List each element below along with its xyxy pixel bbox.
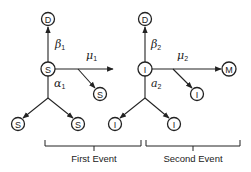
svg-text:D: D <box>45 15 52 25</box>
rate-mu1: μ1 <box>86 49 97 62</box>
rate-beta1: β1 <box>54 38 65 51</box>
node-m: M <box>222 62 236 76</box>
svg-text:S: S <box>15 120 21 130</box>
svg-text:M: M <box>225 65 233 75</box>
label-first-event: First Event <box>71 153 117 164</box>
node-d1: D <box>42 13 55 26</box>
svg-text:I: I <box>173 120 176 130</box>
svg-text:S: S <box>97 90 103 100</box>
rate-alpha1: α1 <box>54 77 65 90</box>
edge-branch-to-i <box>173 69 192 88</box>
svg-text:I: I <box>196 90 199 100</box>
edge-branch-to-s <box>78 69 95 88</box>
rate-beta2: β2 <box>150 38 161 51</box>
svg-text:I: I <box>144 65 147 75</box>
svg-text:D: D <box>142 15 149 25</box>
edge-split-left-s <box>23 98 48 118</box>
svg-text:I: I <box>114 120 117 130</box>
node-d2: D <box>139 13 152 26</box>
node-s-branch: S <box>94 88 107 101</box>
svg-text:S: S <box>75 120 81 130</box>
node-s-left: S <box>12 118 25 131</box>
node-i-branch: I <box>191 88 204 101</box>
edge-split-left-i <box>120 98 145 118</box>
event-diagram: D S S S S D I I I I M β1 μ1 α1 β2 μ2 a2 … <box>0 0 251 172</box>
node-s-main: S <box>41 62 55 76</box>
svg-text:S: S <box>45 65 51 75</box>
node-i-left: I <box>109 118 122 131</box>
node-i-right: I <box>168 118 181 131</box>
label-second-event: Second Event <box>163 153 223 164</box>
bracket-second-event <box>146 140 240 151</box>
node-s-right: S <box>72 118 85 131</box>
node-i-main: I <box>138 62 152 76</box>
edge-split-right-i <box>145 98 169 118</box>
rate-alpha2: a2 <box>151 77 162 90</box>
bracket-first-event <box>45 140 141 151</box>
edge-split-right-s <box>48 98 73 118</box>
rate-mu2: μ2 <box>177 49 188 62</box>
